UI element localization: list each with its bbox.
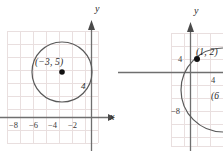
x-tick-minus-2: −2: [68, 121, 77, 130]
y-tick-4: 4: [178, 55, 182, 64]
y-tick-minus-8: −8: [171, 107, 180, 116]
circle-shape: [181, 48, 223, 132]
x-tick-minus-6: −6: [29, 121, 38, 130]
left-radius-label: 4: [81, 82, 86, 91]
y-axis-arrowhead: [187, 22, 194, 32]
right-graph-canvas: [118, 0, 223, 151]
right-graph-panel: (1, 2) (6 4 −8 4 y: [118, 0, 223, 151]
y-axis-arrowhead: [88, 20, 95, 30]
x-tick-minus-8: −8: [9, 121, 18, 130]
figure-root: (−3, 5) 4 −8 −6 −4 −2 x y: [0, 0, 223, 151]
x-tick-4: 4: [211, 76, 215, 85]
right-secondary-label: (6: [211, 92, 219, 102]
x-tick-minus-4: −4: [48, 121, 57, 130]
y-axis-label: y: [194, 6, 198, 16]
center-point-marker: [59, 69, 65, 75]
y-axis-label: y: [95, 4, 99, 14]
right-point-label: (1, 2): [196, 48, 218, 58]
x-axis-label: x: [110, 112, 114, 122]
left-center-label: (−3, 5): [35, 58, 63, 68]
left-graph-panel: (−3, 5) 4 −8 −6 −4 −2 x y: [0, 0, 118, 151]
